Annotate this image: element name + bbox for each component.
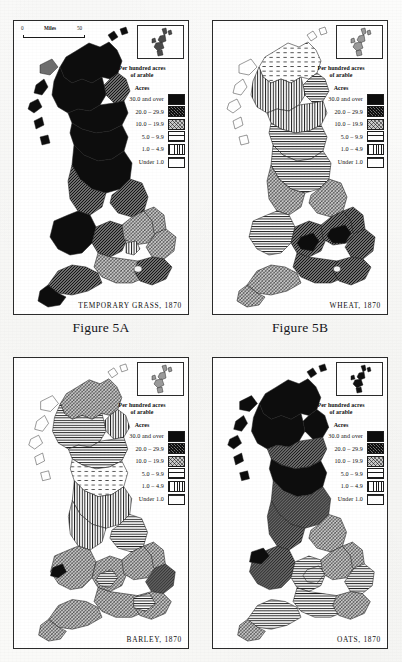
legend-subheading: Acres xyxy=(298,422,384,428)
map-title: WHEAT, 1870 xyxy=(330,301,382,310)
legend-heading-line2: of arable xyxy=(298,72,384,79)
figure-panel-barley: Per hundred acres of arable Acres 30.0 a… xyxy=(13,357,189,649)
legend-label: 10.0 – 19.9 xyxy=(135,121,168,127)
legend-swatch-light-stipple xyxy=(168,456,185,467)
legend-row: 5.0 – 9.9 xyxy=(298,131,384,144)
legend-swatch-light-stipple xyxy=(367,119,384,130)
legend-swatch-sparse-dashes xyxy=(168,157,185,168)
shetland-inset-map xyxy=(138,26,183,58)
legend-row: 30.0 and over xyxy=(298,430,384,443)
legend-swatch-vertical-lines xyxy=(367,481,384,492)
legend-swatch-dark-stipple xyxy=(367,106,384,117)
legend-barley: Per hundred acres of arable Acres 30.0 a… xyxy=(99,402,185,505)
legend-row: 30.0 and over xyxy=(99,93,185,106)
legend-row: 1.0 – 4.9 xyxy=(298,143,384,156)
legend-row: 5.0 – 9.9 xyxy=(99,468,185,481)
legend-swatch-vertical-lines xyxy=(367,144,384,155)
legend-row: 20.0 – 29.9 xyxy=(298,442,384,455)
legend-label: 20.0 – 29.9 xyxy=(334,109,367,115)
legend-heading-line2: of arable xyxy=(99,72,185,79)
legend-swatch-sparse-dashes xyxy=(168,494,185,505)
legend-row: 20.0 – 29.9 xyxy=(99,442,185,455)
map-title: TEMPORARY GRASS, 1870 xyxy=(78,301,182,310)
shetland-inset-map xyxy=(337,363,382,395)
shetland-inset-box xyxy=(336,25,383,59)
scale-bar-line xyxy=(23,35,85,38)
figure-panel-oats: Per hundred acres of arable Acres 30.0 a… xyxy=(212,357,388,649)
legend-row: 20.0 – 29.9 xyxy=(298,105,384,118)
legend-swatch-dark-stipple xyxy=(168,106,185,117)
legend-swatch-dark-stipple xyxy=(168,443,185,454)
legend-swatch-solid-black xyxy=(367,431,384,442)
legend-oats: Per hundred acres of arable Acres 30.0 a… xyxy=(298,402,384,505)
legend-row: 20.0 – 29.9 xyxy=(99,105,185,118)
legend-label: 5.0 – 9.9 xyxy=(341,134,367,140)
map-title: OATS, 1870 xyxy=(337,635,381,644)
legend-row: 1.0 – 4.9 xyxy=(298,480,384,493)
figure-caption-5b: Figure 5B xyxy=(212,320,388,336)
legend-row: Under 1.0 xyxy=(298,156,384,169)
legend-swatch-horizontal-lines xyxy=(168,468,185,479)
legend-label: Under 1.0 xyxy=(139,496,168,502)
legend-wheat: Per hundred acres of arable Acres 30.0 a… xyxy=(298,65,384,168)
legend-row: Under 1.0 xyxy=(99,156,185,169)
legend-row: Under 1.0 xyxy=(298,493,384,506)
legend-row: 1.0 – 4.9 xyxy=(99,143,185,156)
legend-swatch-vertical-lines xyxy=(168,481,185,492)
legend-heading-line1: Per hundred acres xyxy=(99,65,185,72)
legend-swatch-light-stipple xyxy=(168,119,185,130)
legend-label: 30.0 and over xyxy=(129,433,168,439)
shetland-inset-map xyxy=(138,363,183,395)
shetland-inset-map xyxy=(337,26,382,58)
shetland-inset-box xyxy=(336,362,383,396)
legend-subheading: Acres xyxy=(99,422,185,428)
figure-grid: 0 Miles 50 Per hundred acres xyxy=(0,0,402,662)
legend-label: 30.0 and over xyxy=(129,96,168,102)
legend-swatch-horizontal-lines xyxy=(367,468,384,479)
legend-subheading: Acres xyxy=(298,85,384,91)
legend-swatch-solid-black xyxy=(168,94,185,105)
legend-row: 10.0 – 19.9 xyxy=(298,118,384,131)
legend-row: 10.0 – 19.9 xyxy=(298,455,384,468)
legend-row: 10.0 – 19.9 xyxy=(99,455,185,468)
legend-row: 5.0 – 9.9 xyxy=(99,131,185,144)
legend-swatch-vertical-lines xyxy=(168,144,185,155)
legend-row: 10.0 – 19.9 xyxy=(99,118,185,131)
legend-swatch-horizontal-lines xyxy=(168,131,185,142)
legend-row: 1.0 – 4.9 xyxy=(99,480,185,493)
figure-caption-5a: Figure 5A xyxy=(13,320,189,336)
legend-swatch-dark-stipple xyxy=(367,443,384,454)
legend-swatch-sparse-dashes xyxy=(367,494,384,505)
legend-label: 20.0 – 29.9 xyxy=(135,446,168,452)
scale-bar: 0 Miles 50 xyxy=(21,26,91,41)
legend-label: 30.0 and over xyxy=(328,433,367,439)
legend-swatch-sparse-dashes xyxy=(367,157,384,168)
scale-unit-label: Miles xyxy=(44,25,56,31)
legend-heading-line1: Per hundred acres xyxy=(298,65,384,72)
legend-label: 30.0 and over xyxy=(328,96,367,102)
shetland-inset-box xyxy=(137,362,184,396)
legend-label: 1.0 – 4.9 xyxy=(341,483,367,489)
legend-heading-line2: of arable xyxy=(298,409,384,416)
legend-swatch-horizontal-lines xyxy=(367,131,384,142)
legend-row: 5.0 – 9.9 xyxy=(298,468,384,481)
legend-heading-line2: of arable xyxy=(99,409,185,416)
legend-subheading: Acres xyxy=(99,85,185,91)
legend-temporary-grass: Per hundred acres of arable Acres 30.0 a… xyxy=(99,65,185,168)
legend-label: 10.0 – 19.9 xyxy=(135,458,168,464)
legend-heading-line1: Per hundred acres xyxy=(298,402,384,409)
legend-swatch-solid-black xyxy=(367,94,384,105)
legend-label: 1.0 – 4.9 xyxy=(142,146,168,152)
legend-label: 5.0 – 9.9 xyxy=(341,471,367,477)
scale-left-label: 0 xyxy=(21,25,24,31)
figure-panel-wheat: Per hundred acres of arable Acres 30.0 a… xyxy=(212,20,388,315)
legend-row: Under 1.0 xyxy=(99,493,185,506)
figure-panel-temporary-grass: 0 Miles 50 Per hundred acres xyxy=(13,20,189,315)
legend-label: 5.0 – 9.9 xyxy=(142,134,168,140)
legend-label: Under 1.0 xyxy=(338,496,367,502)
legend-label: 1.0 – 4.9 xyxy=(341,146,367,152)
legend-label: Under 1.0 xyxy=(338,159,367,165)
shetland-inset-box xyxy=(137,25,184,59)
legend-label: 20.0 – 29.9 xyxy=(135,109,168,115)
map-title: BARLEY, 1870 xyxy=(127,635,183,644)
